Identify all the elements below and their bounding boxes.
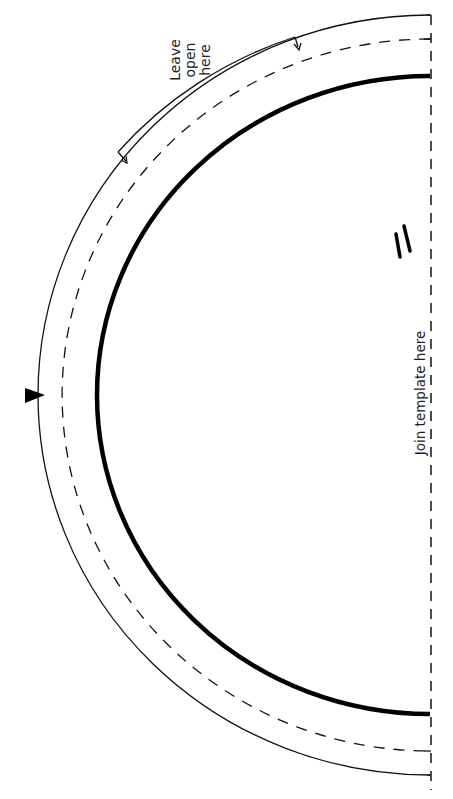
leave-open-line-1: Leave	[167, 39, 183, 81]
leave-open-line-2: open	[182, 43, 198, 78]
pattern-template: Leave open here Join template here	[0, 0, 453, 799]
finished-edge-line	[97, 76, 430, 714]
double-slash-marker-icon	[396, 226, 410, 257]
leave-open-label: Leave open here	[167, 39, 213, 81]
leave-open-line-3: here	[197, 44, 213, 76]
join-template-label: Join template here	[412, 331, 428, 457]
seam-allowance-line	[62, 39, 430, 751]
notch-triangle-icon	[25, 388, 45, 403]
